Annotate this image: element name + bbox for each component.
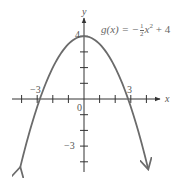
origin-label: 0 (77, 103, 82, 113)
equation-lhs: g(x) = − (101, 23, 139, 35)
y-axis-label: y (82, 7, 86, 17)
x-axis-label: x (165, 94, 169, 104)
equation-rhs: + 4 (153, 23, 170, 35)
x-tick-label-neg3: −3 (30, 85, 41, 95)
function-equation-label: g(x) = −12x2 + 4 (101, 23, 170, 38)
y-tick-label-neg3: −3 (64, 141, 75, 151)
y-tick-label-4: 4 (75, 30, 80, 40)
fraction-one-half: 12 (140, 23, 144, 38)
fraction-denominator: 2 (140, 31, 144, 38)
x-tick-label-3: 3 (127, 85, 132, 95)
